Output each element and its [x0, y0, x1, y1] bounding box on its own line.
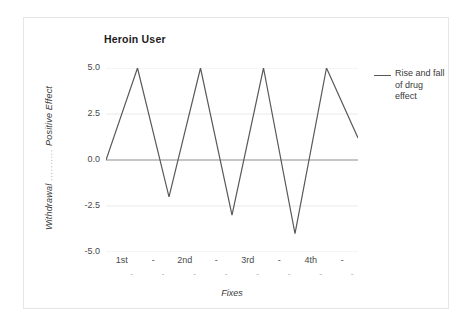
x-tick-label: 2nd — [177, 255, 192, 265]
x-axis-ticks-secondary: -------- — [106, 269, 374, 281]
plot-area — [106, 68, 358, 252]
x-tick-label: 3rd — [241, 255, 254, 265]
x-tick-label: - — [215, 255, 218, 265]
x-tick-label-secondary: - — [351, 269, 354, 278]
x-tick-label-secondary: - — [319, 269, 322, 278]
y-axis-title-high: Positive Effect — [44, 86, 54, 146]
x-tick-label: 1st — [116, 255, 128, 265]
y-tick-label: 2.5 — [62, 108, 100, 118]
x-tick-label-secondary: - — [288, 269, 291, 278]
x-tick-label-secondary: - — [256, 269, 259, 278]
y-tick-label: 5.0 — [62, 62, 100, 72]
x-tick-label: - — [152, 255, 155, 265]
y-axis-title-connector: .......... — [45, 149, 54, 181]
y-axis-ticks: 5.02.50.0-2.5-5.0 — [62, 0, 100, 329]
chart-figure: Heroin User Withdrawal .......... Positi… — [0, 0, 474, 329]
line-chart-svg — [106, 68, 358, 252]
y-tick-label: 0.0 — [62, 154, 100, 164]
legend-line-swatch-icon — [374, 71, 391, 80]
x-tick-label-secondary: - — [225, 269, 228, 278]
y-axis-title: Withdrawal .......... Positive Effect — [38, 58, 60, 258]
chart-legend: Rise and fall of drug effect — [374, 68, 446, 103]
x-tick-label: - — [278, 255, 281, 265]
chart-title: Heroin User — [104, 33, 166, 45]
x-tick-label-secondary: - — [193, 269, 196, 278]
legend-item-label: Rise and fall of drug effect — [395, 68, 446, 103]
y-tick-label: -5.0 — [62, 246, 100, 256]
y-tick-label: -2.5 — [62, 200, 100, 210]
data-series — [106, 68, 358, 234]
legend-item: Rise and fall of drug effect — [374, 68, 446, 103]
series-line — [106, 68, 358, 234]
y-axis-title-low: Withdrawal — [44, 184, 54, 230]
x-axis-ticks: 1st-2nd-3rd-4th- — [106, 255, 358, 269]
x-tick-label-secondary: - — [130, 269, 133, 278]
x-tick-label-secondary: - — [162, 269, 165, 278]
x-axis-title: Fixes — [106, 288, 358, 298]
x-tick-label: 4th — [304, 255, 317, 265]
x-tick-label: - — [341, 255, 344, 265]
